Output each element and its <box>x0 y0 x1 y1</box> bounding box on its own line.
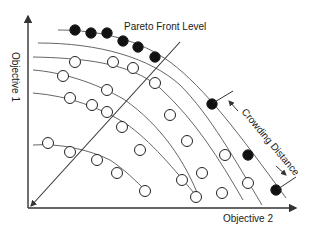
solution-point <box>108 57 119 68</box>
pareto-front-diagram: Pareto Front Level Crowding Distance Obj… <box>0 0 315 230</box>
solution-point <box>58 71 69 82</box>
front-4-curve <box>33 70 200 200</box>
solution-point <box>112 168 123 179</box>
solution-point <box>150 78 161 89</box>
solution-point <box>70 57 81 68</box>
solution-point <box>217 188 228 199</box>
pareto-point <box>207 99 217 109</box>
pareto-point <box>118 36 128 46</box>
solution-point <box>191 192 202 203</box>
pareto-front-level-label: Pareto Front Level <box>124 21 206 32</box>
objective-1-label: Objective 1 <box>10 52 21 102</box>
solution-point <box>220 150 231 161</box>
solution-point <box>117 122 128 133</box>
crowding-tick-bottom <box>278 177 296 189</box>
solution-point <box>165 110 176 121</box>
solution-point <box>197 168 208 179</box>
crowding-tick-top <box>213 91 233 103</box>
solution-point <box>65 147 76 158</box>
solution-point <box>140 186 151 197</box>
crowding-arrow-bottom <box>276 166 286 175</box>
solution-point <box>177 175 188 186</box>
level-direction-arrow <box>31 42 180 206</box>
pareto-point <box>271 185 281 195</box>
crowding-arrow-top <box>229 101 238 111</box>
solution-point <box>92 155 103 166</box>
objective-2-label: Objective 2 <box>223 213 273 224</box>
crowding-distance-label: Crowding Distance <box>239 106 302 178</box>
pareto-point <box>150 52 160 62</box>
pareto-point <box>70 25 80 35</box>
solution-point <box>128 63 139 74</box>
diagram-canvas: Pareto Front Level Crowding Distance Obj… <box>0 0 315 230</box>
solution-point <box>135 145 146 156</box>
solution-point <box>43 138 54 149</box>
pareto-point <box>243 150 253 160</box>
front-2-curve <box>38 43 262 205</box>
solution-point <box>243 178 254 189</box>
solution-point <box>87 100 98 111</box>
solution-point <box>182 136 193 147</box>
pareto-point <box>86 28 96 38</box>
pareto-point <box>102 28 112 38</box>
pareto-point <box>133 42 143 52</box>
solution-point <box>102 85 113 96</box>
solution-point <box>102 107 113 118</box>
solution-point <box>65 93 76 104</box>
